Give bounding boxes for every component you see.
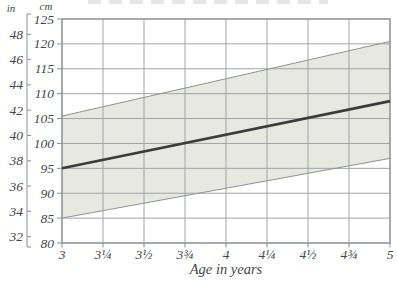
cm-tick-label: 80 xyxy=(41,236,55,251)
x-tick-label: 4¼ xyxy=(259,247,276,262)
x-tick-label: 4¾ xyxy=(341,247,358,262)
growth-chart: 33¼3½3¾44¼4½4¾51251201151101051009590858… xyxy=(0,0,397,282)
in-tick-label: 38 xyxy=(9,153,24,168)
growth-chart-figure: 33¼3½3¾44¼4½4¾51251201151101051009590858… xyxy=(0,0,397,282)
cm-tick-label: 100 xyxy=(34,136,55,151)
in-tick-label: 46 xyxy=(10,52,24,67)
x-tick-label: 3¼ xyxy=(94,247,112,262)
x-tick-label: 3½ xyxy=(135,247,153,262)
in-tick-label: 44 xyxy=(10,77,24,92)
x-tick-label: 3 xyxy=(58,247,66,262)
in-tick-label: 36 xyxy=(9,179,24,194)
x-tick-label: 4 xyxy=(223,247,230,262)
in-tick-label: 40 xyxy=(10,128,24,143)
cm-unit-label: cm xyxy=(40,0,53,12)
in-tick-label: 42 xyxy=(10,103,24,118)
cm-tick-label: 95 xyxy=(41,161,55,176)
x-tick-label: 3¾ xyxy=(176,247,194,262)
in-unit-label: in xyxy=(7,2,16,14)
in-tick-label: 32 xyxy=(9,229,24,244)
cm-tick-label: 105 xyxy=(34,111,55,126)
in-tick-label: 34 xyxy=(9,204,24,219)
x-axis-title: Age in years xyxy=(189,261,263,277)
cm-tick-label: 120 xyxy=(34,36,55,51)
cm-tick-label: 90 xyxy=(41,186,55,201)
cm-tick-label: 125 xyxy=(34,12,55,27)
x-tick-label: 4½ xyxy=(300,247,317,262)
in-tick-label: 48 xyxy=(10,27,24,42)
cm-tick-label: 110 xyxy=(35,86,54,101)
x-tick-label: 5 xyxy=(387,247,394,262)
cm-tick-label: 115 xyxy=(35,61,54,76)
cm-tick-label: 85 xyxy=(41,211,55,226)
